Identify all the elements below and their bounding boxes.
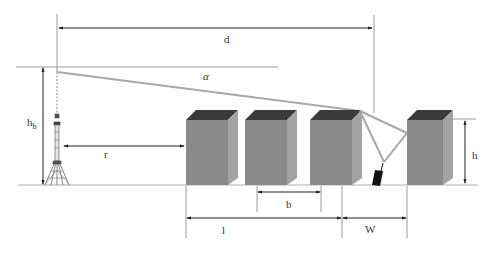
diffracted-reflected-rays xyxy=(360,111,407,162)
distance-r-dimension: r xyxy=(63,145,185,161)
label-b: b xyxy=(286,198,292,210)
building-3 xyxy=(310,110,362,185)
label-h: h xyxy=(472,149,478,161)
street-block-l-w-dimension: l W xyxy=(186,186,407,238)
label-l: l xyxy=(222,224,225,236)
label-r: r xyxy=(104,148,108,160)
building-2 xyxy=(245,110,297,185)
label-d: d xyxy=(224,33,230,45)
distance-d-dimension: d xyxy=(57,14,374,113)
building-4 xyxy=(407,110,453,185)
tower-height-hb-dimension: hb xyxy=(27,67,45,185)
propagation-diagram: d α hb r xyxy=(0,0,494,256)
label-alpha: α xyxy=(203,70,209,82)
building-spacing-b-dimension: b xyxy=(257,186,321,212)
label-w: W xyxy=(365,223,376,235)
label-hb: hb xyxy=(27,116,37,131)
base-station-tower-icon xyxy=(45,72,69,185)
building-1 xyxy=(186,110,238,185)
mobile-terminal-icon xyxy=(372,163,383,186)
